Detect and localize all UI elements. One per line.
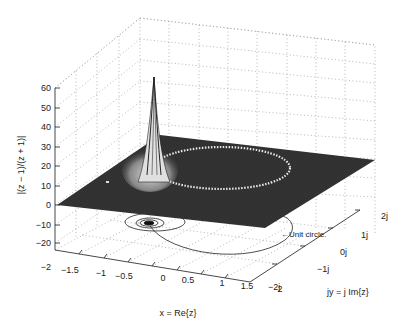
surface-plot: 60 50 40 30 20 10 0 −10 −20 −2 −1.5 −1 −… bbox=[0, 0, 411, 323]
svg-text:10: 10 bbox=[41, 181, 51, 191]
z-tick-labels: 60 50 40 30 20 10 0 −10 −20 bbox=[36, 83, 51, 248]
unit-circle-annotation: ←Unit circle. bbox=[281, 230, 326, 239]
svg-text:1: 1 bbox=[219, 278, 224, 288]
svg-text:−1: −1 bbox=[96, 268, 106, 278]
svg-text:−1.5: −1.5 bbox=[61, 265, 79, 275]
svg-text:20: 20 bbox=[41, 161, 51, 171]
z-axis-label: |(z − 1)/(z + 1)| bbox=[16, 136, 26, 195]
svg-text:0: 0 bbox=[160, 273, 165, 283]
surface bbox=[57, 135, 375, 228]
svg-text:0.5: 0.5 bbox=[182, 275, 195, 285]
svg-text:−2j: −2j bbox=[268, 282, 280, 292]
svg-text:40: 40 bbox=[41, 122, 51, 132]
peak-spike bbox=[138, 77, 170, 182]
svg-text:1j: 1j bbox=[361, 230, 368, 240]
svg-text:0j: 0j bbox=[340, 247, 347, 257]
y-tick-labels: −2j −1j 0j 1j 2j bbox=[268, 211, 388, 292]
svg-text:50: 50 bbox=[41, 103, 51, 113]
svg-text:1.5: 1.5 bbox=[241, 281, 254, 291]
svg-text:−0.5: −0.5 bbox=[115, 271, 133, 281]
svg-text:−2: −2 bbox=[41, 262, 51, 272]
svg-text:−1j: −1j bbox=[317, 264, 329, 274]
svg-text:0: 0 bbox=[46, 200, 51, 210]
svg-text:60: 60 bbox=[41, 83, 51, 93]
svg-text:−10: −10 bbox=[36, 220, 51, 230]
y-axis-label: jy = j Im{z} bbox=[326, 287, 369, 297]
svg-text:2j: 2j bbox=[381, 211, 388, 221]
svg-text:30: 30 bbox=[41, 142, 51, 152]
svg-text:−20: −20 bbox=[36, 238, 51, 248]
x-axis-label: x = Re{z} bbox=[160, 308, 197, 318]
x-tick-labels: −2 −1.5 −1 −0.5 0 0.5 1 1.5 2 bbox=[41, 262, 283, 294]
